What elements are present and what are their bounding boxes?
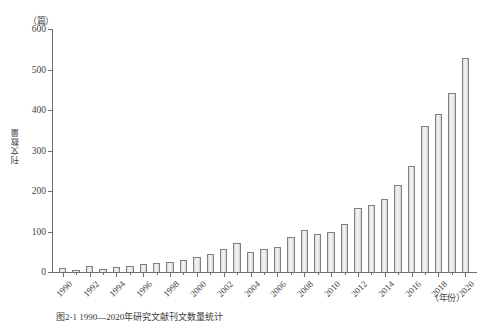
x-axis-tick	[412, 272, 413, 277]
y-axis-title: 刊文数量	[10, 128, 22, 164]
x-axis-tick-label: 1998	[161, 279, 181, 299]
y-axis-tick-label: 400	[32, 105, 46, 115]
bar-2001	[207, 254, 214, 272]
bar-2010	[327, 232, 334, 272]
x-axis-tick	[318, 272, 319, 275]
bar-2020	[462, 58, 469, 272]
x-axis-tick	[251, 272, 252, 277]
y-axis-tick	[48, 151, 52, 152]
bar-2018	[435, 114, 442, 272]
x-axis-tick	[116, 272, 117, 277]
y-axis-tick-label: 200	[32, 186, 46, 196]
x-axis-tick-label: 2002	[215, 279, 235, 299]
y-axis-tick	[48, 272, 52, 273]
bar-1996	[140, 264, 147, 272]
x-axis-tick	[63, 272, 64, 277]
bar-2009	[314, 234, 321, 272]
figure-caption: 图2-1 1990—2020年研究文献刊文数量统计	[56, 310, 223, 323]
x-axis-tick-label: 2006	[269, 279, 289, 299]
y-axis-tick-label: 0	[41, 267, 46, 277]
bar-2007	[287, 237, 294, 272]
x-axis-tick	[438, 272, 439, 277]
x-axis-tick-label: 2012	[349, 279, 369, 299]
x-axis-tick	[398, 272, 399, 275]
x-axis-tick	[143, 272, 144, 277]
bar-1999	[180, 260, 187, 272]
bar-2008	[301, 230, 308, 272]
bar-2003	[233, 243, 240, 272]
x-axis-tick-label: 2008	[296, 279, 316, 299]
bar-2016	[408, 166, 415, 272]
y-axis-tick	[48, 70, 52, 71]
x-axis-tick	[183, 272, 184, 275]
x-axis-tick	[264, 272, 265, 275]
x-axis-tick-label: 2016	[403, 279, 423, 299]
x-axis-tick-label: 2000	[188, 279, 208, 299]
y-axis-tick	[48, 110, 52, 111]
x-axis-tick	[465, 272, 466, 277]
x-axis-tick-label: 2010	[322, 279, 342, 299]
x-axis-tick	[291, 272, 292, 275]
x-axis-tick	[157, 272, 158, 275]
x-axis-tick	[76, 272, 77, 275]
x-axis-tick	[452, 272, 453, 275]
x-axis-tick-label: 2020	[457, 279, 477, 299]
x-axis-tick	[90, 272, 91, 277]
bar-2017	[421, 126, 428, 272]
y-axis-tick	[48, 191, 52, 192]
x-axis-tick	[170, 272, 171, 277]
y-axis-tick	[48, 232, 52, 233]
y-axis-tick-label: 600	[32, 24, 46, 34]
y-axis-tick-label: 500	[32, 65, 46, 75]
x-axis-tick-label: 1994	[108, 279, 128, 299]
x-axis-tick	[130, 272, 131, 275]
x-axis-tick	[103, 272, 104, 275]
x-axis-tick-label: 1992	[81, 279, 101, 299]
x-axis-tick	[224, 272, 225, 277]
x-axis-tick	[371, 272, 372, 275]
bar-2013	[368, 205, 375, 272]
bar-2014	[381, 199, 388, 272]
y-axis-tick-label: 300	[32, 146, 46, 156]
x-axis-tick-label: 1990	[54, 279, 74, 299]
bar-2011	[341, 224, 348, 272]
bar-2005	[260, 249, 267, 272]
y-axis-tick-label: 100	[32, 227, 46, 237]
bar-2019	[448, 93, 455, 272]
x-axis-tick	[425, 272, 426, 275]
bar-1997	[153, 263, 160, 272]
x-axis-tick	[277, 272, 278, 277]
x-axis-tick	[358, 272, 359, 277]
x-axis-tick	[304, 272, 305, 277]
bar-2002	[220, 249, 227, 272]
bar-1998	[166, 262, 173, 272]
x-axis-tick	[385, 272, 386, 277]
bar-2006	[274, 247, 281, 272]
bar-2000	[193, 257, 200, 272]
x-axis-tick-label: 1996	[135, 279, 155, 299]
x-axis-tick	[345, 272, 346, 275]
x-axis-tick	[237, 272, 238, 275]
bar-2012	[354, 208, 361, 272]
y-axis-tick	[48, 29, 52, 30]
x-axis-tick	[331, 272, 332, 277]
plot-area: 0100200300400500600	[52, 29, 476, 272]
x-axis-tick	[197, 272, 198, 277]
x-axis-tick	[210, 272, 211, 275]
x-axis-tick-label: 2004	[242, 279, 262, 299]
x-axis-tick-label: 2014	[376, 279, 396, 299]
bar-2004	[247, 252, 254, 272]
bar-2015	[394, 185, 401, 272]
